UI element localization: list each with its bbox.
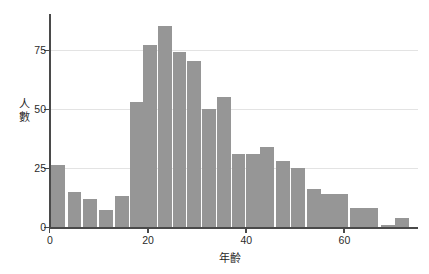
bar — [335, 194, 349, 227]
bar — [130, 102, 144, 227]
bar — [51, 165, 65, 227]
bar — [276, 161, 290, 227]
x-tick-label-40: 40 — [240, 234, 252, 246]
bar — [395, 218, 409, 227]
bar — [381, 225, 395, 227]
y-axis-label: 人數 — [16, 98, 32, 123]
bar — [364, 208, 378, 227]
x-tick-label-0: 0 — [47, 234, 53, 246]
bar — [350, 208, 364, 227]
x-axis-label: 年齡 — [219, 252, 241, 264]
x-tick-mark-60 — [343, 228, 344, 233]
bar — [232, 154, 246, 227]
bar — [202, 109, 216, 227]
histogram-chart: 人數 0255075 0204060 年齡 — [0, 0, 429, 274]
bar — [173, 52, 187, 227]
bar — [115, 196, 129, 227]
bar — [246, 154, 260, 227]
x-tick-label-60: 60 — [339, 234, 351, 246]
x-axis-line — [49, 227, 418, 229]
y-tick-label-25: 25 — [34, 162, 46, 174]
bar — [68, 192, 82, 228]
bar — [99, 210, 113, 227]
bar — [307, 189, 321, 227]
bar — [143, 45, 157, 227]
x-tick-mark-40 — [245, 228, 246, 233]
x-tick-label-20: 20 — [142, 234, 154, 246]
y-tick-label-75: 75 — [34, 44, 46, 56]
bar — [260, 147, 274, 227]
x-tick-mark-0 — [49, 228, 50, 233]
bars-layer — [50, 14, 418, 227]
y-tick-label-50: 50 — [34, 103, 46, 115]
y-tick-label-0: 0 — [40, 221, 46, 233]
bar — [217, 97, 231, 227]
bar — [291, 168, 305, 227]
x-axis-label-wrap: 年齡 — [0, 249, 429, 265]
bar — [158, 26, 172, 227]
bar — [321, 194, 335, 227]
bar — [187, 61, 201, 227]
bar — [83, 199, 97, 227]
x-tick-mark-20 — [147, 228, 148, 233]
